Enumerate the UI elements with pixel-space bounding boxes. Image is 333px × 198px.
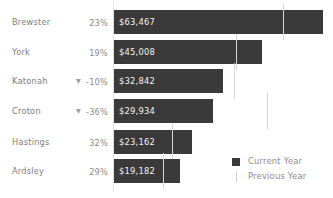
bar-value-label: $23,162 — [119, 137, 155, 147]
bar-value-label: $29,934 — [119, 106, 155, 116]
category-label: Croton — [12, 106, 41, 116]
previous-year-marker — [163, 153, 164, 189]
percent-change-value: -10% — [86, 76, 108, 86]
current-year-bar[interactable]: $63,467 — [114, 10, 323, 34]
legend-swatch-line-icon — [236, 171, 237, 182]
legend-label-current-year: Current Year — [248, 154, 302, 169]
percent-change-cell: 23% — [62, 17, 108, 28]
percent-change-value: -36% — [86, 106, 108, 116]
percent-change-cell: 29% — [62, 166, 108, 177]
current-year-bar[interactable]: $19,182 — [114, 159, 180, 183]
bar-value-label: $45,008 — [119, 47, 155, 57]
bar-chart: Brewster23%$63,467York19%$45,008Katonah▼… — [0, 0, 333, 198]
percent-change-value: 23% — [89, 17, 108, 27]
current-year-bar[interactable]: $32,842 — [114, 69, 223, 93]
previous-year-marker — [172, 124, 173, 160]
category-label: Ardsley — [12, 166, 44, 176]
current-year-bar[interactable]: $29,934 — [114, 99, 213, 123]
previous-year-marker — [267, 93, 268, 129]
chart-row: Hastings32%$23,162 — [0, 127, 333, 157]
chart-row: Katonah▼-10%$32,842 — [0, 66, 333, 96]
category-label: York — [12, 47, 30, 57]
legend-item-current-year[interactable]: Current Year — [232, 154, 332, 169]
trend-down-arrow-icon: ▼ — [76, 107, 81, 114]
chart-row: Croton▼-36%$29,934 — [0, 96, 333, 126]
current-year-bar[interactable]: $23,162 — [114, 130, 192, 154]
chart-legend: Current Year Previous Year — [232, 154, 332, 184]
percent-change-cell: 19% — [62, 47, 108, 58]
chart-row: York19%$45,008 — [0, 37, 333, 67]
previous-year-marker — [283, 4, 284, 40]
category-label: Hastings — [12, 137, 50, 147]
bar-value-label: $19,182 — [119, 166, 155, 176]
previous-year-marker — [236, 34, 237, 70]
current-year-bar[interactable]: $45,008 — [114, 40, 262, 64]
previous-year-marker — [234, 63, 235, 99]
percent-change-value: 29% — [89, 166, 108, 176]
legend-item-previous-year[interactable]: Previous Year — [232, 169, 332, 184]
bar-value-label: $63,467 — [119, 17, 155, 27]
percent-change-cell: ▼-36% — [62, 106, 108, 117]
bar-value-label: $32,842 — [119, 76, 155, 86]
chart-row: Brewster23%$63,467 — [0, 7, 333, 37]
legend-swatch-square-icon — [232, 158, 240, 166]
legend-label-previous-year: Previous Year — [248, 169, 306, 184]
percent-change-cell: 32% — [62, 137, 108, 148]
percent-change-value: 32% — [89, 137, 108, 147]
percent-change-cell: ▼-10% — [62, 76, 108, 87]
category-label: Brewster — [12, 17, 50, 27]
percent-change-value: 19% — [89, 47, 108, 57]
category-label: Katonah — [12, 76, 48, 86]
trend-down-arrow-icon: ▼ — [76, 77, 81, 84]
